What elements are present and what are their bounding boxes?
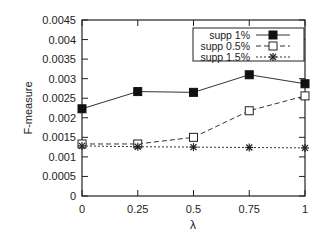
y-tick-label: 0.0035 — [42, 53, 76, 65]
x-tick-label: 0.75 — [239, 203, 260, 215]
y-axis-label: F-measure — [22, 81, 34, 134]
y-tick-label: 0.0015 — [42, 131, 76, 143]
series-2 — [78, 142, 309, 152]
line-chart: 00.00050.0010.00150.0020.00250.0030.0035… — [0, 0, 321, 242]
y-tick-label: 0.0045 — [42, 14, 76, 26]
x-tick-label: 0 — [79, 203, 85, 215]
y-tick-label: 0.003 — [48, 73, 76, 85]
y-tick-label: 0.001 — [48, 151, 76, 163]
legend: supp 1%supp 0.5%supp 1.5% — [193, 28, 304, 63]
legend-label: supp 1.5% — [200, 51, 250, 63]
y-tick-label: 0.002 — [48, 112, 76, 124]
series-0 — [78, 71, 309, 113]
x-tick-label: 0.25 — [127, 203, 148, 215]
y-tick-label: 0.0005 — [42, 170, 76, 182]
series-group — [78, 71, 309, 152]
y-tick-label: 0 — [70, 190, 76, 202]
y-tick-label: 0.0025 — [42, 92, 76, 104]
series-1 — [78, 92, 309, 148]
x-axis-label: λ — [190, 218, 196, 232]
x-tick-label: 0.5 — [186, 203, 201, 215]
x-tick-label: 1 — [302, 203, 308, 215]
y-tick-label: 0.004 — [48, 34, 76, 46]
